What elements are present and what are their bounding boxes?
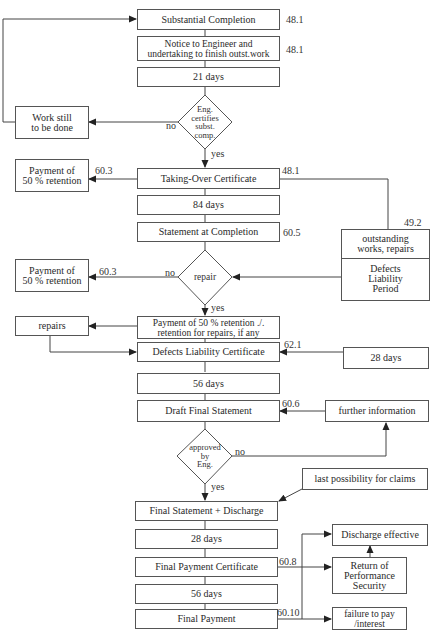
clause-ref: 60.8 (279, 557, 297, 567)
return-performance-security-box: Return of Performance Security (332, 557, 407, 594)
edge-label-yes: yes (211, 482, 224, 492)
outstanding-works-label: outstanding works, repairs (342, 230, 429, 259)
clause-ref: 48.1 (282, 166, 300, 176)
days-84-box: 84 days (137, 195, 280, 215)
payment-50-retention-box-1: Payment of 50 % retention (15, 159, 89, 192)
days-28-side-box: 28 days (343, 347, 429, 369)
work-still-to-be-done-box: Work still to be done (15, 106, 89, 139)
draft-final-statement-box: Draft Final Statement (137, 400, 280, 422)
days-56-box-2: 56 days (135, 584, 278, 604)
clause-ref: 60.5 (283, 228, 301, 238)
substantial-completion-box: Substantial Completion (137, 9, 280, 30)
defects-liability-certificate-label: Defects Liability Certificate (152, 347, 264, 357)
draft-final-statement-label: Draft Final Statement (165, 406, 252, 416)
decision-approved-label: approved by Eng. (184, 441, 226, 471)
failure-to-pay-label: failure to pay /interest (344, 609, 395, 629)
defects-liability-period-label: Defects Liability Period (342, 259, 429, 300)
decision-repair-label: repair (183, 270, 227, 284)
final-payment-certificate-label: Final Payment Certificate (155, 562, 258, 572)
further-information-box: further information (325, 400, 429, 422)
final-payment-certificate-box: Final Payment Certificate (135, 557, 278, 577)
last-possibility-claims-box: last possibility for claims (302, 468, 428, 490)
substantial-completion-label: Substantial Completion (161, 15, 255, 25)
work-still-to-be-done-label: Work still to be done (31, 113, 73, 133)
taking-over-certificate-label: Taking-Over Certificate (161, 174, 257, 184)
clause-ref: 60.10 (277, 608, 300, 618)
notice-to-engineer-label: Notice to Engineer and undertaking to fi… (148, 39, 270, 59)
payment-50-retention-label: Payment of 50 % retention (23, 266, 82, 286)
clause-ref: 60.6 (282, 399, 300, 409)
edge-label-no: no (235, 447, 245, 457)
clause-ref: 49.2 (404, 218, 422, 228)
clause-ref: 48.1 (286, 15, 304, 25)
payment-50-retention-box-2: Payment of 50 % retention (15, 259, 89, 292)
clause-ref: 60.3 (99, 267, 117, 277)
statement-at-completion-label: Statement at Completion (159, 227, 258, 237)
return-performance-security-label: Return of Performance Security (344, 561, 395, 591)
last-possibility-claims-label: last possibility for claims (315, 474, 416, 484)
final-payment-label: Final Payment (177, 614, 235, 624)
payment-50-retention-label: Payment of 50 % retention (23, 166, 82, 186)
edge-label-no: no (165, 268, 175, 278)
edge-label-yes: yes (211, 303, 224, 313)
days-21-box: 21 days (137, 67, 280, 87)
days-28-side-label: 28 days (371, 353, 402, 363)
days-84-label: 84 days (193, 200, 224, 210)
discharge-effective-label: Discharge effective (341, 530, 419, 540)
further-information-label: further information (339, 406, 416, 416)
final-statement-discharge-box: Final Statement + Discharge (135, 501, 278, 521)
clause-ref: 48.1 (286, 45, 304, 55)
outstanding-works-defects-period-box: outstanding works, repairs Defects Liabi… (341, 229, 430, 301)
days-28-box: 28 days (135, 529, 278, 549)
defects-liability-certificate-box: Defects Liability Certificate (137, 342, 280, 362)
days-21-label: 21 days (193, 72, 224, 82)
edge-label-no: no (166, 121, 176, 131)
failure-to-pay-box: failure to pay /interest (332, 607, 407, 630)
discharge-effective-box: Discharge effective (332, 524, 428, 546)
clause-ref: 62.1 (284, 340, 302, 350)
edge-label-yes: yes (211, 149, 224, 159)
final-statement-discharge-label: Final Statement + Discharge (149, 506, 263, 516)
final-payment-box: Final Payment (135, 609, 278, 629)
days-56-label: 56 days (191, 589, 222, 599)
statement-at-completion-box: Statement at Completion (137, 222, 280, 242)
taking-over-certificate-box: Taking-Over Certificate (137, 168, 280, 189)
repairs-label: repairs (38, 321, 65, 331)
notice-to-engineer-box: Notice to Engineer and undertaking to fi… (137, 36, 280, 61)
days-28-label: 28 days (191, 534, 222, 544)
clause-ref: 60.3 (95, 166, 113, 176)
repairs-box: repairs (15, 316, 89, 336)
days-56-label: 56 days (193, 379, 224, 389)
decision-certifies-label: Eng. certifies subst. comp. (183, 101, 227, 143)
payment-retention-repairs-box: Payment of 50 % retention ./. retention … (137, 316, 280, 339)
days-56-box: 56 days (137, 373, 280, 394)
payment-retention-repairs-label: Payment of 50 % retention ./. retention … (153, 318, 265, 338)
